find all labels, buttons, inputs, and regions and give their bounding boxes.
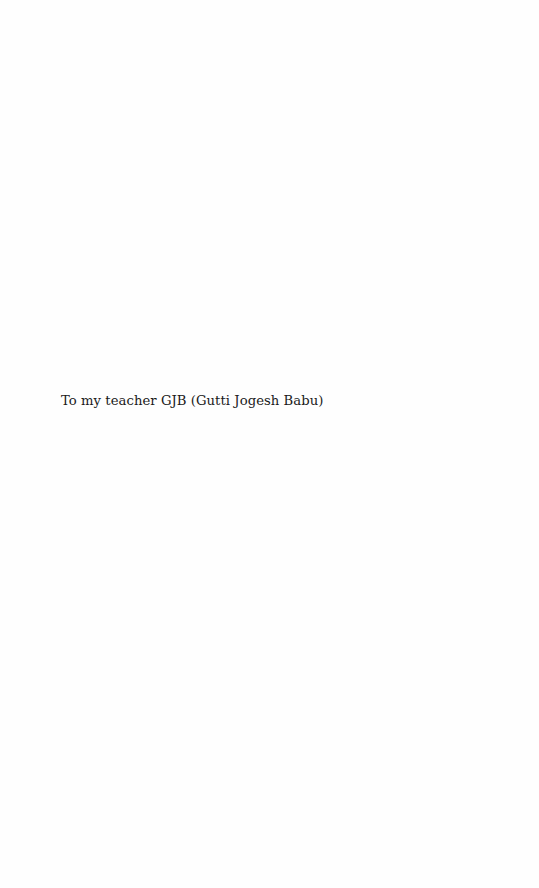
document-page: To my teacher GJB (Gutti Jogesh Babu) (0, 0, 539, 888)
dedication-text: To my teacher GJB (Gutti Jogesh Babu) (61, 393, 324, 409)
